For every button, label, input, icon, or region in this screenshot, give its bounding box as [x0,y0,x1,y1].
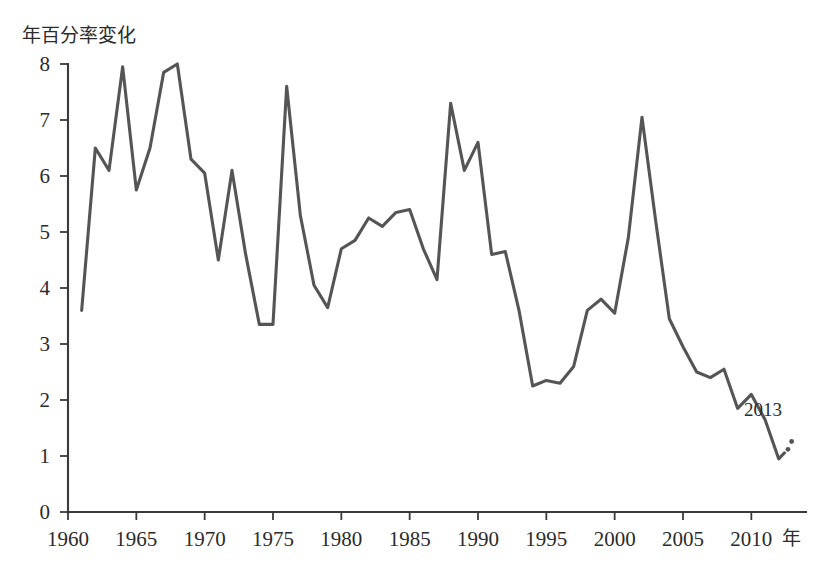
x-tick-label: 1970 [184,527,226,551]
x-tick-label: 2000 [594,527,636,551]
x-tick-label: 1975 [252,527,294,551]
annotation-label-2013: 2013 [744,399,782,420]
y-tick-label: 8 [40,52,51,76]
y-tick-label: 2 [40,388,51,412]
y-tick-label: 3 [40,332,51,356]
y-tick-label: 5 [40,220,51,244]
x-tick-label: 1995 [525,527,567,551]
x-tick-label: 2005 [662,527,704,551]
x-tick-label: 1985 [389,527,431,551]
y-axis-label-text: 年百分率変化 [22,25,136,46]
x-tick-label: 1965 [115,527,157,551]
x-tick-label: 1990 [457,527,499,551]
y-tick-label: 1 [40,444,51,468]
chart-container: 年百分率変化 012345678 19601965197019751980198… [0,0,827,586]
y-tick-label: 0 [40,500,51,524]
series-continuation-dot [789,439,794,444]
y-tick-label: 4 [40,276,51,300]
line-chart: 年百分率変化 012345678 19601965197019751980198… [0,0,827,586]
x-axis-unit-label: 年 [782,528,801,549]
y-tick-label: 7 [40,108,51,132]
series-continuation-dot [786,447,791,452]
x-tick-label: 1960 [47,527,89,551]
x-tick-label: 1980 [320,527,362,551]
x-tick-label: 2010 [730,527,772,551]
y-axis-label: 年百分率変化 [22,25,136,46]
y-tick-label: 6 [40,164,51,188]
